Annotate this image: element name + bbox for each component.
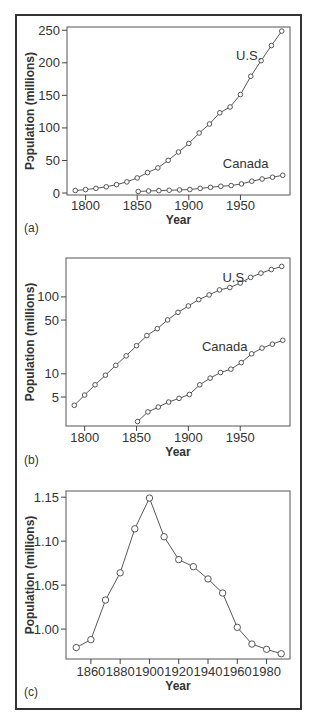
data-point-marker [250,179,255,184]
data-point-marker [279,264,284,269]
data-point-marker [280,173,285,178]
data-point-marker [187,392,192,397]
data-point-marker [269,43,274,48]
data-point-marker [134,343,139,348]
data-point-marker [238,92,243,97]
x-tick-label: 1900 [174,198,203,213]
data-point-marker [125,180,130,185]
data-point-marker [218,370,223,375]
x-tick-label: 1850 [123,198,152,213]
panel-label: (c) [24,685,38,699]
x-tick-label: 1950 [226,430,255,445]
data-point-marker [270,342,275,347]
data-point-marker [72,403,77,408]
x-tick-label: 1980 [252,664,281,679]
data-point-marker [188,187,193,192]
series-line [74,266,281,405]
data-point-marker [132,526,138,532]
x-axis-title: Year [166,213,192,227]
x-axis-title: Year [165,679,191,693]
data-point-marker [114,182,119,187]
series-line [76,498,281,654]
data-point-marker [167,188,172,193]
data-point-marker [278,651,284,657]
data-point-marker [166,400,171,405]
y-tick-label: 1.15 [34,490,59,505]
y-tick-label: 100 [38,120,60,135]
data-point-marker [279,29,284,34]
data-point-marker [229,367,234,372]
x-tick-label: 1920 [164,664,193,679]
x-tick-label: 1880 [106,664,135,679]
series-label: U.S. [236,48,261,63]
series-label: Canada [223,156,269,171]
y-tick-label: 1.00 [34,622,59,637]
data-point-marker [280,338,285,343]
data-point-marker [197,383,202,388]
x-tick-label: 1860 [76,664,105,679]
y-tick-label: 50 [45,313,59,328]
x-tick-label: 1960 [223,664,252,679]
data-point-marker [239,182,244,187]
data-point-marker [198,186,203,191]
data-point-marker [249,352,254,357]
data-point-marker [234,624,240,630]
data-point-marker [248,74,253,79]
x-tick-label: 1900 [174,430,203,445]
x-tick-label: 1800 [70,430,99,445]
series-label: Canada [202,339,248,354]
y-axis-title: Population (millions) [23,516,37,635]
data-point-marker [196,297,201,302]
data-point-marker [259,271,264,276]
y-tick-label: 5 [52,390,59,405]
data-point-marker [161,534,167,540]
y-tick-label: 10 [45,366,59,381]
data-point-marker [146,189,151,194]
data-point-marker [205,576,211,582]
data-point-marker [176,310,181,315]
data-point-marker [177,396,182,401]
y-tick-label: 1.10 [34,534,59,549]
data-point-marker [117,570,123,576]
y-tick-label: 0 [53,186,60,201]
data-point-marker [217,288,222,293]
data-point-marker [219,184,224,189]
data-point-marker [197,131,202,136]
data-point-marker [260,177,265,182]
data-point-marker [102,597,108,603]
data-point-marker [103,373,108,378]
y-tick-label: 150 [38,88,60,103]
data-point-marker [248,275,253,280]
x-tick-label: 1950 [226,198,255,213]
data-point-marker [135,176,140,181]
data-point-marker [82,393,87,398]
data-point-marker [93,383,98,388]
data-point-marker [146,495,152,501]
data-point-marker [156,166,161,171]
panel-label: (b) [24,453,39,467]
data-point-marker [176,556,182,562]
x-axis-title: Year [165,445,191,459]
data-point-marker [190,563,196,569]
panel-label: (a) [24,221,39,235]
data-point-marker [186,304,191,309]
data-point-marker [104,184,109,189]
data-point-marker [94,186,99,191]
chart-c: 1.001.051.101.15186018801900192019401960… [23,490,290,699]
data-point-marker [260,346,265,351]
data-point-marker [165,318,170,323]
chart-a: 0501001502002501800185019001950YearPɔpul… [23,23,290,235]
data-point-marker [208,376,213,381]
data-point-marker [146,410,151,415]
data-point-marker [229,183,234,188]
plot-area [66,491,290,659]
data-point-marker [176,150,181,155]
x-tick-label: 1900 [135,664,164,679]
y-axis-title: Pɔpulation (millions) [23,52,37,170]
data-point-marker [228,285,233,290]
x-tick-label: 1940 [194,664,223,679]
data-point-marker [269,267,274,272]
data-point-marker [239,360,244,365]
data-point-marker [145,333,150,338]
data-point-marker [73,188,78,193]
